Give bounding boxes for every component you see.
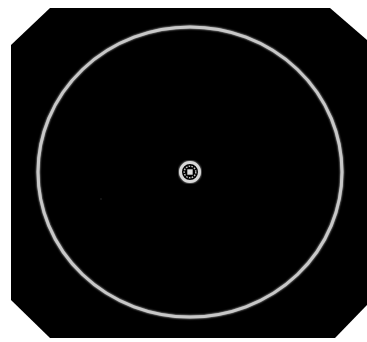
- dial-canvas: [0, 0, 367, 342]
- dial-scene: [0, 0, 367, 342]
- gear-icon[interactable]: [181, 163, 200, 182]
- speck: [100, 198, 102, 200]
